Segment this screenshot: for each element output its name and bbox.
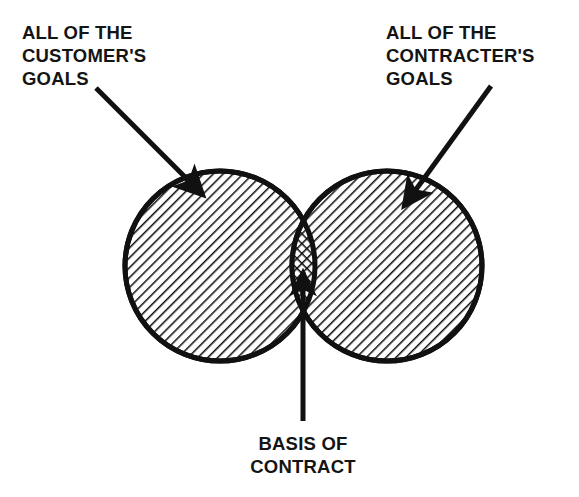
venn-diagram-svg: ALL OF THE CUSTOMER'S GOALS ALL OF THE C…	[0, 0, 579, 497]
contracter-goals-label-line1: ALL OF THE	[386, 22, 497, 43]
diagram-canvas: ALL OF THE CUSTOMER'S GOALS ALL OF THE C…	[0, 0, 579, 497]
contracter-goals-label-line3: GOALS	[386, 68, 453, 89]
customer-goals-label-line2: CUSTOMER'S	[22, 45, 146, 66]
customer-goals-label-line1: ALL OF THE	[22, 22, 133, 43]
contracter-goals-label-line2: CONTRACTER'S	[386, 45, 535, 66]
basis-of-contract-label-line2: CONTRACT	[250, 456, 356, 477]
customer-goals-label-line3: GOALS	[22, 68, 89, 89]
basis-of-contract-label-line1: BASIS OF	[259, 433, 348, 454]
